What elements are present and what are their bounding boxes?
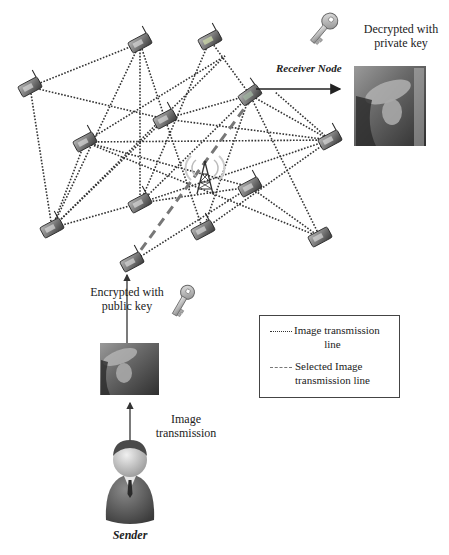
dashed-line-swatch (270, 367, 292, 368)
public-key-icon (168, 283, 197, 319)
sensor-node-icon (14, 69, 43, 97)
legend-item-selected-line: Selected Image transmission line (270, 360, 395, 388)
dotted-line-swatch (270, 331, 292, 332)
sensor-node-icon (124, 185, 153, 213)
legend-label-continued: transmission line (270, 374, 395, 388)
legend-label: Selected Image (295, 360, 363, 372)
wsn-image-transmission-diagram (0, 0, 449, 555)
legend-label-continued: line (270, 338, 395, 352)
receiver-node-label: Receiver Node (276, 62, 342, 75)
sensor-node-icon (187, 212, 216, 240)
decrypted-label: Decrypted with private key (356, 22, 446, 51)
receiver-node-icon (233, 77, 262, 106)
sensor-node-icon (314, 122, 343, 150)
sensor-node-icon (69, 124, 98, 152)
sensor-node-icon (307, 227, 332, 248)
legend: Image transmission line Selected Image t… (259, 315, 400, 398)
sensor-node-icon (194, 22, 223, 50)
legend-item-transmission-line: Image transmission line (270, 324, 395, 352)
source-image (100, 343, 159, 395)
sender-person-icon (106, 440, 154, 524)
decrypted-image (354, 66, 426, 146)
selected-transmission-line (132, 98, 252, 262)
sensor-node-icon (124, 25, 153, 53)
image-transmission-label: Image transmission (146, 412, 226, 441)
sensor-nodes (14, 22, 343, 272)
encrypted-label: Encrypted with public key (82, 285, 172, 314)
sender-label: Sender (108, 528, 152, 542)
tower-icon (186, 156, 225, 194)
private-key-icon (306, 10, 341, 47)
legend-label: Image transmission (294, 324, 380, 336)
